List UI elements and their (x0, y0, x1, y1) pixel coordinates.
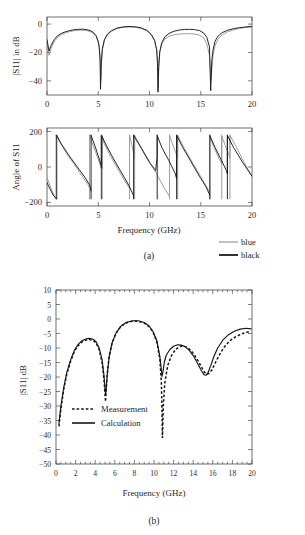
y-tick-label: −30 (39, 402, 51, 411)
magnitude-plot-frame (47, 17, 252, 95)
x-tick-label: 0 (45, 210, 49, 220)
x-tick-label: 18 (229, 469, 237, 478)
x-tick-label: 20 (248, 210, 257, 220)
curve-calculation (59, 321, 251, 424)
y-tick-label: 200 (29, 127, 42, 137)
legend-label-black: black (241, 250, 260, 260)
x-tick-label: 6 (113, 469, 117, 478)
panel-b-svg: 024681012141618201050−5−10−15−20−25−30−3… (0, 268, 305, 535)
panel-b-caption: (b) (148, 516, 159, 527)
y-tick-label: −35 (39, 417, 51, 426)
figure-container: 051015200−20−40 |S11| in dB 051015202000… (0, 0, 305, 535)
panel-b-y-axis-label: |S11| dB (18, 365, 28, 395)
y-tick-label: −40 (29, 76, 42, 86)
y-tick-label: 0 (38, 19, 42, 29)
panel-b-plot-frame (56, 290, 252, 464)
x-tick-label: 15 (197, 210, 206, 220)
phase-x-axis-label: Frequency (GHz) (117, 225, 180, 235)
panel-b-curves (59, 321, 251, 438)
x-tick-label: 10 (145, 210, 154, 220)
legend-label-calculation: Calculation (101, 418, 141, 428)
x-tick-label: 15 (197, 99, 206, 109)
y-tick-label: −20 (39, 373, 51, 382)
y-tick-label: −200 (24, 197, 42, 207)
panel-b-x-axis-label: Frequency (GHz) (122, 488, 185, 498)
y-tick-label: 0 (47, 315, 51, 324)
curve-black (47, 135, 252, 198)
chart-s11-phase: 051015202000−200 Angle of S11 Frequency … (11, 127, 256, 235)
y-tick-label: −5 (43, 330, 51, 339)
panel-a-svg: 051015200−20−40 |S11| in dB 051015202000… (0, 0, 305, 268)
chart-s11-magnitude: 051015200−20−40 |S11| in dB (11, 17, 256, 109)
y-tick-label: −50 (39, 460, 51, 469)
x-tick-label: 12 (170, 469, 178, 478)
panel-b-axis-ticks: 024681012141618201050−5−10−15−20−25−30−3… (39, 286, 256, 478)
legend-label-blue: blue (241, 237, 256, 247)
y-tick-label: 10 (43, 286, 51, 295)
panel-b: 024681012141618201050−5−10−15−20−25−30−3… (0, 268, 305, 535)
y-tick-label: −10 (39, 344, 51, 353)
magnitude-curves (47, 27, 252, 93)
x-tick-label: 5 (96, 210, 100, 220)
x-tick-label: 10 (145, 99, 154, 109)
panel-a: 051015200−20−40 |S11| in dB 051015202000… (0, 0, 305, 268)
phase-y-axis-label: Angle of S11 (11, 143, 21, 191)
y-tick-label: −40 (39, 431, 51, 440)
x-tick-label: 5 (96, 99, 100, 109)
panel-a-legend: blue black (219, 237, 260, 260)
magnitude-y-axis-label: |S11| in dB (11, 36, 21, 75)
x-tick-label: 0 (54, 469, 58, 478)
x-tick-label: 10 (150, 469, 158, 478)
curve-blue (47, 27, 252, 88)
x-tick-label: 2 (74, 469, 78, 478)
x-tick-label: 4 (93, 469, 97, 478)
phase-curves (47, 135, 252, 199)
x-tick-label: 16 (209, 469, 217, 478)
y-tick-label: 0 (38, 162, 42, 172)
panel-b-legend: Measurement Calculation (72, 404, 148, 428)
y-tick-label: −45 (39, 446, 51, 455)
chart-s11-measurement-calculation: 024681012141618201050−5−10−15−20−25−30−3… (18, 286, 256, 498)
x-tick-label: 0 (45, 99, 49, 109)
y-tick-label: 5 (47, 301, 51, 310)
y-tick-label: −25 (39, 388, 51, 397)
y-tick-label: −20 (29, 47, 42, 57)
legend-label-measurement: Measurement (101, 404, 148, 414)
panel-a-caption: (a) (144, 251, 155, 262)
x-tick-label: 14 (189, 469, 197, 478)
y-tick-label: −15 (39, 359, 51, 368)
x-tick-label: 8 (133, 469, 137, 478)
x-tick-label: 20 (248, 469, 256, 478)
x-tick-label: 20 (248, 99, 257, 109)
